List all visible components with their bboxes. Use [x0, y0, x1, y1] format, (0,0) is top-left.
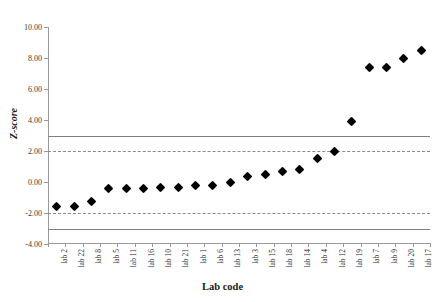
x-category-label: lab 9 — [390, 249, 399, 264]
y-tick-label: 8.00 — [28, 54, 42, 63]
data-point — [209, 182, 216, 189]
x-category-label: lab 15 — [268, 249, 277, 268]
data-point — [400, 54, 407, 61]
x-tick-mark — [100, 243, 101, 247]
z-score-chart: Z-score 10.008.006.004.002.000.00-2.00-4… — [0, 0, 445, 302]
x-category-label: lab 13 — [233, 249, 242, 268]
x-tick-mark — [48, 243, 49, 247]
data-point — [244, 173, 251, 180]
x-category-label: lab 20 — [407, 249, 416, 268]
y-tick-label: -2.00 — [25, 209, 42, 218]
x-tick-mark — [274, 243, 275, 247]
x-category-label: lab 5 — [112, 249, 121, 264]
data-point — [140, 185, 147, 192]
data-point — [192, 182, 199, 189]
y-tick-label: 10.00 — [24, 23, 42, 32]
x-tick-mark — [291, 243, 292, 247]
x-tick-mark — [222, 243, 223, 247]
x-tick-mark — [256, 243, 257, 247]
data-point — [53, 203, 60, 210]
x-category-label: lab 22 — [77, 249, 86, 268]
x-tick-mark — [170, 243, 171, 247]
plot-area: 10.008.006.004.002.000.00-2.00-4.00 — [48, 27, 430, 244]
x-tick-mark — [343, 243, 344, 247]
y-tick-label: 6.00 — [28, 85, 42, 94]
x-category-label: lab 1 — [199, 249, 208, 264]
reference-line-warning-limit-lower — [48, 213, 430, 214]
data-point — [348, 118, 355, 125]
data-point — [418, 47, 425, 54]
x-tick-mark — [204, 243, 205, 247]
data-point — [105, 185, 112, 192]
x-axis-title: Lab code — [0, 281, 445, 292]
x-tick-mark — [239, 243, 240, 247]
reference-line-warning-limit-upper — [48, 151, 430, 152]
x-tick-mark — [395, 243, 396, 247]
reference-line-action-limit-lower — [48, 229, 430, 230]
y-tick-mark — [44, 120, 48, 121]
data-point — [383, 64, 390, 71]
y-tick-label: 0.00 — [28, 178, 42, 187]
data-point — [123, 185, 130, 192]
y-tick-mark — [44, 27, 48, 28]
x-tick-mark — [135, 243, 136, 247]
data-point — [331, 147, 338, 154]
x-tick-mark — [378, 243, 379, 247]
x-tick-mark — [361, 243, 362, 247]
x-category-label: lab 2 — [60, 249, 69, 264]
x-category-label: lab 17 — [424, 249, 433, 268]
reference-line-action-limit-upper — [48, 136, 430, 137]
x-category-label: lab 8 — [94, 249, 103, 264]
y-tick-label: 4.00 — [28, 116, 42, 125]
y-tick-label: 2.00 — [28, 147, 42, 156]
y-tick-mark — [44, 58, 48, 59]
data-point — [261, 171, 268, 178]
x-tick-mark — [152, 243, 153, 247]
data-point — [296, 166, 303, 173]
x-category-label: lab 19 — [355, 249, 364, 268]
x-tick-mark — [430, 243, 431, 247]
x-category-label: lab 16 — [147, 249, 156, 268]
data-point — [279, 168, 286, 175]
x-tick-mark — [326, 243, 327, 247]
data-point — [314, 155, 321, 162]
x-tick-mark — [117, 243, 118, 247]
y-tick-mark — [44, 182, 48, 183]
data-point — [366, 64, 373, 71]
data-point — [70, 203, 77, 210]
x-category-label: lab 18 — [285, 249, 294, 268]
x-category-label: lab 4 — [320, 249, 329, 264]
data-point — [227, 178, 234, 185]
x-tick-mark — [413, 243, 414, 247]
x-tick-mark — [65, 243, 66, 247]
data-point — [157, 184, 164, 191]
x-category-label: lab 6 — [216, 249, 225, 264]
x-category-label: lab 11 — [129, 249, 138, 267]
y-axis-title: Z-score — [8, 89, 19, 159]
data-point — [88, 198, 95, 205]
x-category-label: lab 7 — [372, 249, 381, 264]
x-tick-mark — [308, 243, 309, 247]
data-point — [175, 184, 182, 191]
x-category-label: lab 10 — [164, 249, 173, 268]
x-category-label: lab 14 — [303, 249, 312, 268]
x-tick-mark — [83, 243, 84, 247]
x-category-label: lab 21 — [181, 249, 190, 268]
y-tick-label: -4.00 — [25, 240, 42, 249]
x-tick-mark — [187, 243, 188, 247]
x-category-label: lab 12 — [338, 249, 347, 268]
x-category-label: lab 3 — [251, 249, 260, 264]
y-tick-mark — [44, 89, 48, 90]
